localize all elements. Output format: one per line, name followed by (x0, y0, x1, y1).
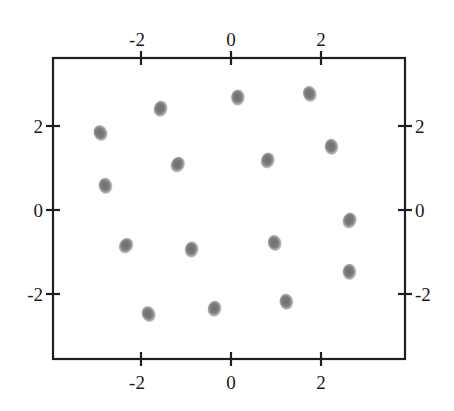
data-point (168, 155, 187, 176)
data-point (278, 292, 296, 312)
axis-tick-labels: -2-20022-2-20022 (27, 29, 431, 393)
data-point (91, 122, 112, 144)
data-point (342, 263, 358, 281)
y-tick-label-right: 2 (415, 116, 425, 137)
x-tick-label-top: -2 (129, 29, 145, 50)
data-point (207, 300, 223, 319)
data-point (116, 235, 136, 256)
plot-frame (53, 58, 405, 359)
y-tick-label-left: 0 (34, 200, 44, 221)
x-tick-label-top: 2 (316, 29, 326, 50)
x-tick-label-bottom: -2 (129, 372, 145, 393)
data-point (139, 303, 160, 325)
data-point (300, 83, 320, 104)
data-point (266, 233, 285, 254)
y-tick-label-left: 2 (34, 116, 44, 137)
axis-ticks (46, 51, 412, 366)
y-tick-label-left: -2 (27, 284, 43, 305)
x-tick-label-bottom: 0 (226, 372, 236, 393)
data-point (259, 151, 276, 170)
y-tick-label-right: 0 (415, 200, 425, 221)
x-tick-label-top: 0 (226, 29, 236, 50)
data-points (91, 83, 359, 325)
y-tick-label-right: -2 (415, 284, 431, 305)
data-point (323, 137, 340, 156)
data-point (341, 211, 360, 231)
data-point (153, 100, 169, 118)
data-point (97, 176, 115, 196)
scatter-chart: -2-20022-2-20022 (0, 0, 454, 411)
data-point (231, 89, 246, 106)
data-point (184, 241, 199, 259)
x-tick-label-bottom: 2 (316, 372, 326, 393)
